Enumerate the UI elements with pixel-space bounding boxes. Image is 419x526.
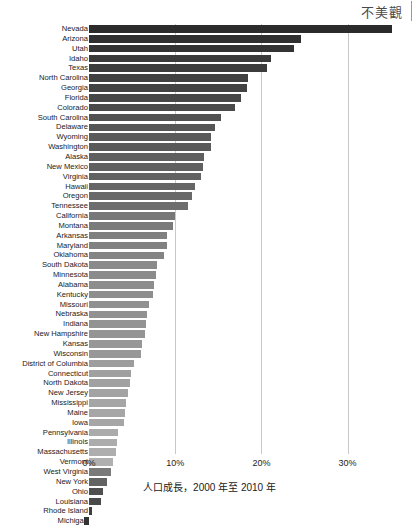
bar [89,104,235,112]
bar-category-label: Georgia [0,83,88,93]
bar-category-label: Louisiana [0,497,88,507]
bar [89,202,188,210]
bar [89,64,267,72]
bar-category-label: Rhode Island [0,506,88,516]
bar-category-label: California [0,211,88,221]
bar-category-label: Nevada [0,24,88,34]
annotation-label: 不美觀 [361,2,403,21]
x-axis-ticks: 0%10%20%30% [0,458,419,472]
bar-category-label: Mississippi [0,398,88,408]
bar-row: Wisconsin [0,349,419,359]
bar-row: North Carolina [0,73,419,83]
bar-category-label: Minnesota [0,270,88,280]
bar-row: New Hampshire [0,329,419,339]
bar [89,507,92,515]
bar [84,517,89,525]
bar [89,291,153,299]
bar [89,173,201,181]
bar [89,133,211,141]
bar-row: Wyoming [0,132,419,142]
bar-category-label: Montana [0,221,88,231]
bar-category-label: Wisconsin [0,349,88,359]
bar-row: Alaska [0,152,419,162]
bar-row: Alabama [0,280,419,290]
bar-row: California [0,211,419,221]
plot-area: NevadaArizonaUtahIdahoTexasNorth Carolin… [0,24,419,454]
bar-row: Oklahoma [0,250,419,260]
bar-row: Iowa [0,418,419,428]
bar [89,143,211,151]
bar-category-label: Nebraska [0,309,88,319]
bar-category-label: Connecticut [0,369,88,379]
bar-row: Kentucky [0,290,419,300]
bar-row: Arkansas [0,231,419,241]
bar-row: Kansas [0,339,419,349]
bar [89,25,392,33]
bar-category-label: Illinois [0,437,88,447]
bar-category-label: District of Columbia [0,359,88,369]
bar [89,261,157,269]
bar [89,94,241,102]
bar [89,124,215,132]
bar-row: Georgia [0,83,419,93]
bar-category-label: Virginia [0,172,88,182]
bar-row: Florida [0,93,419,103]
annotation-divider [411,1,412,21]
bar [89,498,101,506]
bar-row: North Dakota [0,378,419,388]
bar-category-label: Utah [0,44,88,54]
bar [89,389,128,397]
bar-row: Louisiana [0,497,419,507]
bar-row: Pennsylvania [0,428,419,438]
bar-category-label: Pennsylvania [0,428,88,438]
bar-category-label: Alaska [0,152,88,162]
bar-row: Idaho [0,54,419,64]
bar-row: Nevada [0,24,419,34]
bar [89,84,247,92]
bar-category-label: Washington [0,142,88,152]
bar-category-label: Texas [0,63,88,73]
bar-row: Montana [0,221,419,231]
bar [89,271,156,279]
bar-category-label: Tennessee [0,201,88,211]
bar [89,281,154,289]
bar [89,340,142,348]
bar-row: Maryland [0,241,419,251]
bar-category-label: Wyoming [0,132,88,142]
x-tick-0%: 0% [82,458,95,468]
bar-row: Delaware [0,122,419,132]
bar-category-label: Kansas [0,339,88,349]
bar-row: Michigan [0,516,419,526]
bar-row: Utah [0,44,419,54]
bar-row: Mississippi [0,398,419,408]
bar [89,399,126,407]
bar-category-label: Arizona [0,34,88,44]
bar-category-label: Maryland [0,241,88,251]
bar-category-label: Iowa [0,418,88,428]
bar-category-label: North Carolina [0,73,88,83]
bar [89,379,130,387]
bar [89,242,167,250]
bar-category-label: Idaho [0,54,88,64]
bar [89,448,116,456]
bar-category-label: North Dakota [0,378,88,388]
bar-category-label: Delaware [0,122,88,132]
bar [89,252,164,260]
bar [89,45,294,53]
bar-row: Tennessee [0,201,419,211]
bar [89,360,134,368]
bar-row: South Carolina [0,113,419,123]
bar-row: South Dakota [0,260,419,270]
bar-category-label: Maine [0,408,88,418]
bar [89,153,204,161]
bar [89,163,203,171]
bar-row: Arizona [0,34,419,44]
bar-row: New Mexico [0,162,419,172]
bar-row: Connecticut [0,369,419,379]
bar-category-label: New Mexico [0,162,88,172]
bar [89,232,167,240]
bar-row: Minnesota [0,270,419,280]
bar-category-label: Oregon [0,191,88,201]
bar-category-label: South Carolina [0,113,88,123]
